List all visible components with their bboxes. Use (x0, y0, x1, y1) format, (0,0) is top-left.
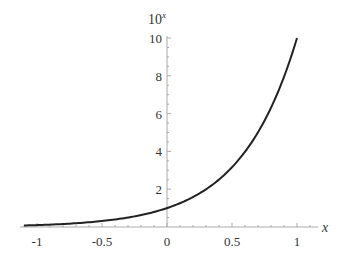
tick-labels: -1-0.500.51246810 (32, 31, 301, 249)
y-tick-label: 4 (156, 144, 163, 159)
x-tick-label: 0 (164, 234, 171, 249)
y-tick-label: 2 (156, 182, 163, 197)
y-tick-label: 8 (156, 69, 163, 84)
ticks (24, 38, 310, 227)
x-tick-label: 0.5 (224, 234, 240, 249)
x-tick-label: -1 (32, 234, 43, 249)
curve-10-to-x (24, 38, 297, 226)
x-tick-label: 1 (294, 234, 301, 249)
y-axis-label-base: 10 (148, 12, 162, 27)
y-tick-label: 10 (149, 31, 162, 46)
plot-area: -1-0.500.51246810 x 10x (0, 0, 348, 259)
y-axis-label: 10x (148, 10, 166, 27)
y-axis-label-exponent: x (161, 10, 166, 20)
y-tick-label: 6 (156, 107, 163, 122)
x-axis-label: x (321, 220, 329, 235)
x-tick-label: -0.5 (92, 234, 113, 249)
